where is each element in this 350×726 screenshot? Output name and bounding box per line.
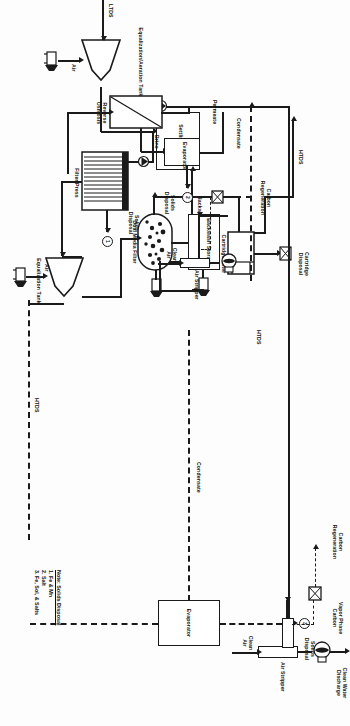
air-label-1: Air: [71, 64, 77, 72]
evaporator-1-label: Evaporator: [182, 142, 188, 162]
carbon-regen2-dashed: [224, 196, 252, 198]
evap1-condensate-riser: [199, 152, 224, 154]
stripper1-blower-riser: [297, 651, 312, 653]
air-stripper2-feed-dashed: [250, 106, 252, 281]
air-stripper2-duct: [198, 215, 200, 259]
dual-media-filter-label: Dual Media Filter: [132, 220, 138, 264]
air-riser-2: [26, 276, 44, 278]
dmf-inlet-arrow: [137, 235, 142, 241]
ro-feed-riser-arrow: [109, 109, 114, 115]
press-filtrate-riser: [62, 181, 82, 183]
cartridge-outlet-drop: [254, 232, 266, 234]
air-label-2: Air: [44, 264, 50, 272]
carbon2-drop-dashed: [201, 249, 211, 250]
air-stripper-1-label: Air Stripper: [280, 662, 286, 692]
ltds-label: LTDS: [108, 4, 114, 18]
carbon-regen1-arrow: [313, 544, 319, 549]
press-solids-arrow: [105, 228, 111, 233]
ro-permeate-line: [188, 106, 190, 113]
note-marker-1: 1: [102, 236, 113, 247]
ro-brine-line: [140, 128, 142, 152]
htds-feed-dashed: [28, 300, 30, 540]
carbon-regeneration-label-1: Carbon Regeneration: [332, 520, 344, 564]
notes-block: Note: Solids Disposal 1. Fe & Mn 2. Salt…: [33, 570, 62, 625]
air-stripper-2-label: Air Stripper: [194, 270, 200, 300]
cartridge-disposal-label: Cartridge Disposal: [298, 244, 310, 284]
carbon2-to-stripper-dashed: [210, 197, 211, 249]
ro-feed-riser: [68, 112, 110, 114]
air-riser-1: [58, 60, 80, 62]
equalization-tank-label: Equalization Tank: [36, 252, 42, 310]
htds-label-2: HTDS: [298, 150, 304, 165]
main-left-rail: [166, 106, 290, 108]
ro-feed-bottom: [67, 112, 69, 174]
stripper1-feed-line: [288, 106, 290, 625]
ro-feed-arrow: [291, 116, 297, 121]
htds-feed-drop: [29, 303, 64, 305]
rail-dmf-backwash-v: [160, 290, 198, 292]
rail-dmf-backwash: [159, 261, 161, 291]
note-item-3: 3. Fe, Sol, & Salts: [33, 570, 40, 625]
notes-heading: Note: Solids Disposal: [55, 570, 62, 625]
stripper1-inlet-arrow: [285, 597, 291, 602]
evaporator-2-label: Evaporator: [186, 604, 192, 642]
dmf-effluent-top: [238, 196, 240, 232]
permeate-label: Permeate: [212, 100, 218, 124]
cartridge-disposal-riser: [254, 253, 278, 255]
eqtank-to-dmf-h: [120, 238, 122, 298]
vapor-carbon-dashed-line: [313, 600, 314, 625]
evap2-top-dashed: [220, 623, 282, 625]
air-arrow-1: [79, 57, 84, 63]
evap1-solids-arrow: [185, 184, 191, 189]
ltds-inlet-arrow: [101, 36, 107, 41]
eqaer-to-settling-riser: [101, 131, 154, 133]
backwash-return-arrow: [190, 166, 196, 171]
note-item-1: 1. Fe & Mn: [47, 570, 54, 625]
air-stripper2-feed-drop: [199, 215, 228, 217]
note-item-2: 2. Salt: [40, 570, 47, 625]
htds-label-1: HTDS: [256, 330, 262, 345]
condensate-label-2: Condensate: [196, 462, 202, 493]
ro-permeate-riser: [161, 112, 190, 114]
air-stripper2-feed-arrow: [249, 102, 255, 107]
rail-press-to-eq: [62, 256, 82, 258]
air-stripper-2-blower-riser: [209, 262, 220, 264]
carbon-regeneration-label-2: Carbon Regeneration: [260, 178, 272, 218]
clean-water-discharge-riser: [330, 651, 346, 653]
carbon-regen1-dashed: [315, 548, 316, 587]
htds-label-3: HTDS: [34, 398, 40, 413]
ro-feed-line: [292, 120, 294, 197]
rail-settling-to-press: [152, 131, 154, 163]
solids-disposal-label-2: Solids Disposal: [164, 186, 176, 220]
backwash-pump-line: [155, 270, 157, 280]
evap1-condensate-line: [222, 112, 224, 153]
vapor-carbon-dashed-drop: [292, 624, 314, 625]
vapor-phase-carbon-label: Vapor Phase Carbon: [332, 596, 344, 640]
clean-water-discharge-label: Clean Water Discharge: [336, 664, 348, 702]
clean-air-label-1: Clean Air: [242, 632, 254, 654]
note-marker-2: 2: [182, 192, 193, 203]
diagram-page: Equalization/Aeration Tank LTDS Air: [0, 0, 350, 726]
filter-press-label: Filter Press: [74, 166, 80, 200]
clean-air-label-2: Clean Air: [166, 244, 178, 266]
clean-air-arrow-1: [257, 649, 262, 655]
clean-water-discharge-arrow: [345, 648, 350, 654]
condensate-label-1: Condensate: [236, 118, 242, 149]
clean-air-arrow-2: [179, 260, 184, 266]
air-stripper-1-distributor: [282, 618, 294, 648]
ltds-inlet-line: [102, 0, 104, 40]
brine-label: Brine: [154, 135, 160, 149]
process-flow-canvas: Equalization/Aeration Tank LTDS Air: [0, 0, 350, 726]
eqtank-to-dmf-riser: [82, 296, 122, 298]
dmf-inlet-riser: [121, 238, 138, 240]
dmf-outlet-line: [153, 196, 155, 215]
equalization-aeration-tank-label: Equalization/Aeration Tank: [138, 26, 144, 98]
evap2-condensate-dashed: [188, 330, 190, 601]
press-filtrate-line: [61, 181, 63, 256]
air-stripper-2: [180, 258, 210, 268]
air-arrow-2: [43, 273, 48, 279]
